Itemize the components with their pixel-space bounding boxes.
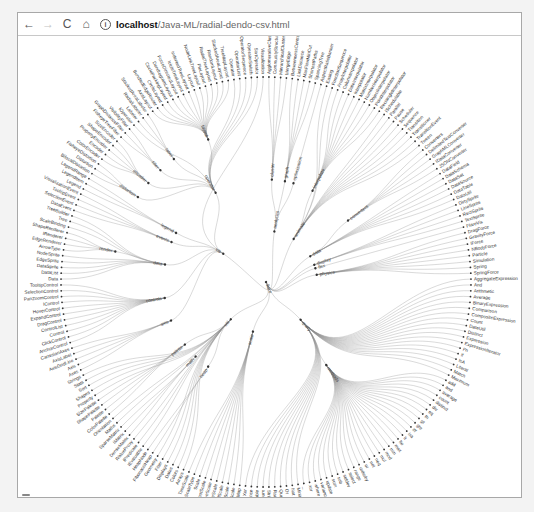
- node-label: Xor: [242, 488, 248, 496]
- node-dot-icon: [216, 82, 218, 84]
- tree-link: [317, 244, 468, 275]
- node-label: encoder: [132, 168, 148, 183]
- node-dot-icon: [227, 79, 229, 81]
- node-label: interpolate: [312, 167, 326, 189]
- node-dot-icon: [470, 272, 472, 274]
- tree-link: [310, 194, 451, 256]
- node-dot-icon: [273, 230, 276, 233]
- branch-node: data: [308, 248, 322, 259]
- leaf-node: AgglomerativeCluster: [266, 36, 272, 78]
- address-bar[interactable]: i localhost/Java-ML/radial-dendo-csv.htm…: [100, 15, 515, 33]
- node-dot-icon: [161, 458, 163, 460]
- node-dot-icon: [470, 278, 472, 280]
- back-arrow-icon: ←: [23, 17, 35, 31]
- node-dot-icon: [60, 284, 62, 286]
- node-label: Variable: [254, 489, 260, 497]
- tree-link: [138, 186, 216, 200]
- node-dot-icon: [466, 243, 468, 245]
- branch-node: operator: [204, 174, 219, 195]
- node-dot-icon: [73, 352, 75, 354]
- leaf-node: StringUtil: [266, 486, 271, 497]
- node-label: Spring: [473, 264, 487, 270]
- radial-dendrogram: flareanalyticsclusterAgglomerativeCluste…: [18, 36, 521, 497]
- node-dot-icon: [61, 301, 63, 303]
- node-dot-icon: [233, 78, 235, 80]
- node-dot-icon: [193, 473, 195, 475]
- node-label: Or: [284, 489, 290, 495]
- branch-node: converters: [346, 203, 370, 223]
- reload-button[interactable]: C: [59, 15, 75, 33]
- node-dot-icon: [311, 189, 314, 192]
- leaf-node: Data: [48, 276, 62, 281]
- branch-node: distortion: [118, 183, 140, 200]
- node-label: StringUtil: [267, 490, 272, 497]
- node-dot-icon: [442, 384, 444, 386]
- tree-link: [74, 321, 171, 354]
- back-button[interactable]: ←: [21, 15, 37, 33]
- leaf-node: Variance: [247, 485, 254, 497]
- branch-node: data: [153, 260, 167, 267]
- node-dot-icon: [67, 226, 69, 228]
- node-dot-icon: [325, 477, 327, 479]
- node-label: DataList: [41, 270, 59, 276]
- node-label: Data: [48, 276, 58, 281]
- tree-link: [113, 319, 231, 418]
- leaf-node: xor: [307, 481, 314, 493]
- node-dot-icon: [331, 87, 333, 89]
- node-dot-icon: [264, 280, 267, 283]
- node-dot-icon: [465, 325, 467, 327]
- node-dot-icon: [347, 93, 349, 95]
- node-label: vis: [215, 247, 223, 255]
- forward-arrow-icon: →: [42, 17, 54, 31]
- tree-link: [61, 263, 165, 279]
- leaf-node: Or: [284, 485, 290, 495]
- node-dot-icon: [363, 461, 365, 463]
- info-icon[interactable]: i: [100, 19, 111, 30]
- node-dot-icon: [309, 481, 311, 483]
- branch-node: physics: [315, 269, 336, 277]
- leaf-node: TooltipControl: [30, 282, 62, 287]
- leaf-node: Sum: [260, 486, 265, 497]
- node-dot-icon: [280, 486, 282, 488]
- node-dot-icon: [239, 484, 241, 486]
- node-dot-icon: [62, 249, 64, 251]
- node-dot-icon: [336, 473, 338, 475]
- branch-node: layout: [200, 124, 211, 141]
- node-dot-icon: [467, 249, 469, 251]
- node-dot-icon: [199, 87, 201, 89]
- node-dot-icon: [75, 358, 77, 360]
- node-dot-icon: [368, 104, 370, 106]
- node-dot-icon: [136, 195, 139, 198]
- node-dot-icon: [77, 363, 79, 365]
- node-dot-icon: [193, 89, 195, 91]
- node-dot-icon: [188, 91, 190, 93]
- node-dot-icon: [250, 77, 252, 79]
- node-dot-icon: [114, 250, 117, 253]
- tree-link: [70, 298, 165, 343]
- node-dot-icon: [285, 485, 287, 487]
- tree-link: [143, 319, 231, 446]
- node-dot-icon: [347, 468, 349, 470]
- node-dot-icon: [252, 330, 255, 333]
- node-dot-icon: [207, 138, 210, 141]
- node-dot-icon: [61, 266, 63, 268]
- tree-link: [165, 250, 223, 265]
- page-content: flareanalyticsclusterAgglomerativeCluste…: [18, 36, 521, 497]
- node-label: Query: [278, 489, 284, 497]
- node-label: AggregateExpression: [474, 276, 518, 282]
- node-dot-icon: [309, 81, 311, 83]
- tree-link: [215, 193, 224, 254]
- node-dot-icon: [188, 471, 190, 473]
- node-dot-icon: [470, 266, 472, 268]
- home-button[interactable]: ⌂: [78, 15, 94, 33]
- node-label: cluster: [269, 163, 275, 177]
- forward-button[interactable]: →: [40, 15, 56, 33]
- branch-node: render: [99, 246, 117, 254]
- node-label: Variance: [247, 489, 253, 497]
- node-dot-icon: [452, 198, 454, 200]
- horizontal-scrollbar[interactable]: [22, 494, 30, 496]
- node-dot-icon: [245, 485, 247, 487]
- node-label: analytics: [272, 210, 280, 229]
- node-dot-icon: [470, 284, 472, 286]
- branch-node: axis: [160, 318, 173, 327]
